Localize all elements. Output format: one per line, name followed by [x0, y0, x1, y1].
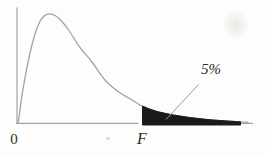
- x-axis-origin-label: 0: [6, 131, 22, 148]
- f-distribution-figure: 0 F 5%: [0, 0, 265, 155]
- x-axis-critical-value-label: F: [133, 130, 151, 148]
- tail-probability-label: 5%: [194, 61, 228, 78]
